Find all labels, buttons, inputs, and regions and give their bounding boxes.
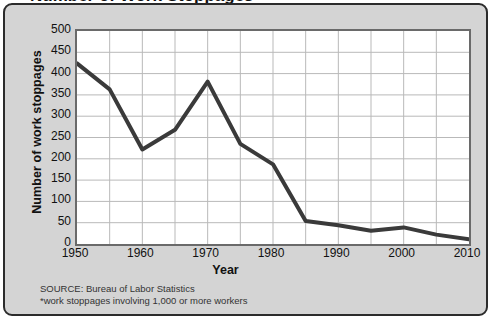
y-tick-label: 150 bbox=[35, 171, 71, 185]
y-tick-label: 250 bbox=[35, 129, 71, 143]
chart-panel: Number of work stoppages 050100150200250… bbox=[3, 3, 488, 316]
source-note: SOURCE: Bureau of Labor Statistics bbox=[40, 283, 248, 295]
y-tick-label: 450 bbox=[35, 43, 71, 57]
plot-svg bbox=[77, 31, 469, 244]
y-tick-label: 100 bbox=[35, 192, 71, 206]
y-tick-label: 300 bbox=[35, 107, 71, 121]
x-tick-label: 1990 bbox=[323, 246, 350, 260]
x-axis-label: Year bbox=[5, 263, 490, 277]
y-tick-label: 400 bbox=[35, 65, 71, 79]
footnote: *work stoppages involving 1,000 or more … bbox=[40, 295, 248, 307]
x-tick-label: 1970 bbox=[192, 246, 219, 260]
chart-figure: Number of Work Stoppages* Number of work… bbox=[0, 0, 495, 323]
x-axis-tick-labels: 1950196019701980199020002010 bbox=[5, 246, 490, 264]
x-tick-label: 2000 bbox=[388, 246, 415, 260]
y-tick-label: 350 bbox=[35, 86, 71, 100]
y-tick-label: 50 bbox=[35, 214, 71, 228]
chart-notes: SOURCE: Bureau of Labor Statistics *work… bbox=[40, 283, 248, 307]
y-tick-label: 500 bbox=[35, 22, 71, 36]
x-tick-label: 1980 bbox=[258, 246, 285, 260]
y-axis-tick-labels: 050100150200250300350400450500 bbox=[35, 23, 71, 242]
plot-area bbox=[75, 29, 471, 246]
x-tick-label: 1950 bbox=[62, 246, 89, 260]
x-axis-label-text: Year bbox=[212, 263, 238, 277]
y-tick-label: 200 bbox=[35, 150, 71, 164]
x-tick-label: 1960 bbox=[127, 246, 154, 260]
x-tick-label: 2010 bbox=[454, 246, 481, 260]
